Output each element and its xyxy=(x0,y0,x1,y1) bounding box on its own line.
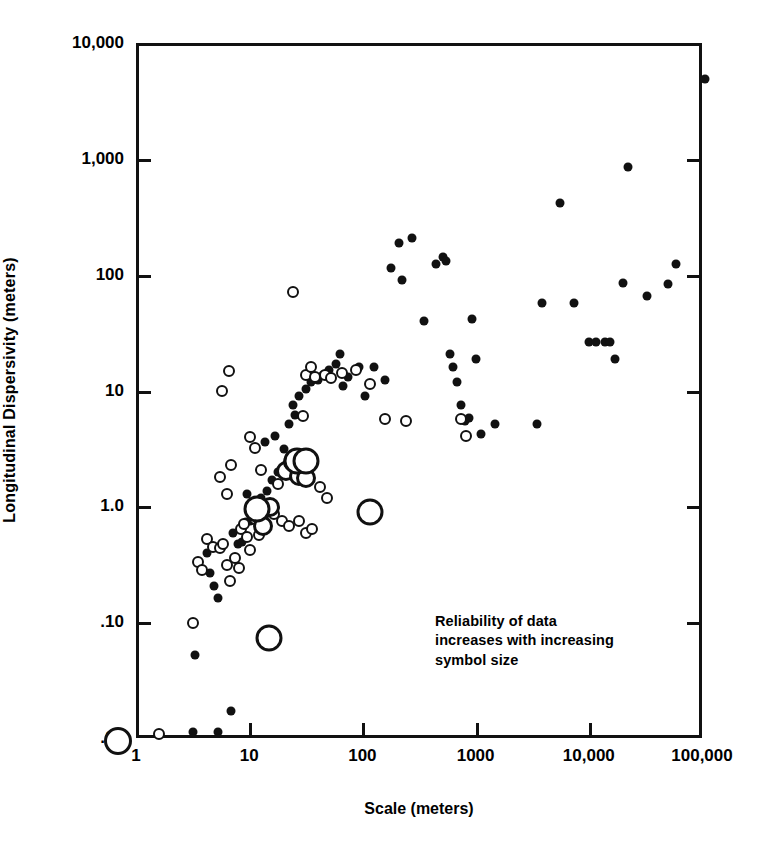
x-tick-label-1: 1 xyxy=(131,746,140,766)
x-tick-label-1000: 1000 xyxy=(457,746,495,766)
x-tick-label-100,000: 100,000 xyxy=(671,746,732,766)
x-tick-label-10,000: 10,000 xyxy=(563,746,615,766)
x-tick-label-10: 10 xyxy=(240,746,259,766)
x-axis-title: Scale (meters) xyxy=(364,800,473,818)
y-axis-title: Longitudinal Dispersivity (meters) xyxy=(1,257,19,523)
dispersivity-scale-figure: .01.101.0101001,00010,000 110100100010,0… xyxy=(0,0,762,850)
legend-largest-symbol-icon xyxy=(104,727,132,755)
reliability-annotation: Reliability of data increases with incre… xyxy=(435,612,614,670)
x-axis-tick-labels: 110100100010,000100,000 xyxy=(0,0,762,850)
x-tick-label-100: 100 xyxy=(348,746,376,766)
